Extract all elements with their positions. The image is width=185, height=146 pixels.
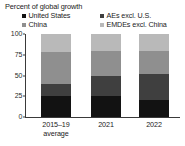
y-tick-mark: [23, 117, 26, 118]
y-tick-mark: [23, 75, 26, 76]
y-tick-label: 0: [19, 113, 23, 121]
bar-2022[interactable]: [139, 34, 169, 117]
legend-swatch-icon: [22, 14, 26, 18]
legend-item-label: AEs excl. U.S.: [107, 11, 152, 20]
bar-segment[interactable]: [91, 51, 121, 76]
chart-legend: United StatesAEs excl. U.S.ChinaEMDEs ex…: [0, 11, 185, 31]
x-tick-label-line: 2021: [81, 120, 131, 129]
bar-segment[interactable]: [41, 52, 71, 84]
stacked-bar-chart: Percent of global growth United StatesAE…: [0, 0, 185, 146]
x-axis-line: [25, 117, 180, 118]
bar-segment[interactable]: [91, 76, 121, 97]
legend-swatch-icon: [100, 23, 104, 27]
bar-segment[interactable]: [91, 96, 121, 117]
y-tick-label: 75: [15, 51, 23, 59]
y-tick-label: 100: [11, 30, 23, 38]
y-tick-label: 25: [15, 92, 23, 100]
legend-item[interactable]: EMDEs excl. China: [100, 20, 167, 29]
x-tick-label-line: 2015–19: [31, 120, 81, 129]
plot-area: 0255075100: [25, 34, 180, 118]
bar-segment[interactable]: [139, 74, 169, 101]
bar-segment[interactable]: [41, 96, 71, 117]
y-axis-line: [25, 34, 26, 118]
legend-swatch-icon: [22, 23, 26, 27]
bar-segment[interactable]: [139, 51, 169, 74]
legend-item[interactable]: AEs excl. U.S.: [100, 11, 151, 20]
bar-segment[interactable]: [139, 100, 169, 117]
x-axis-labels: 2015–19average20212022: [25, 120, 180, 146]
y-tick-label: 50: [15, 72, 23, 80]
legend-item-label: EMDEs excl. China: [107, 20, 167, 29]
y-tick-mark: [23, 34, 26, 35]
x-tick-label: 2022: [129, 120, 179, 129]
legend-item[interactable]: United States: [22, 11, 70, 20]
x-tick-label: 2021: [81, 120, 131, 129]
bar-segment[interactable]: [139, 34, 169, 51]
y-tick-mark: [23, 96, 26, 97]
bar-segment[interactable]: [41, 84, 71, 96]
x-tick-label: 2015–19average: [31, 120, 81, 138]
y-tick-mark: [23, 54, 26, 55]
bar-2015-19-average[interactable]: [41, 34, 71, 117]
legend-item[interactable]: China: [22, 20, 47, 29]
x-tick-label-line: 2022: [129, 120, 179, 129]
bar-2021[interactable]: [91, 34, 121, 117]
chart-title: Percent of global growth: [5, 2, 82, 11]
bar-segment[interactable]: [91, 34, 121, 51]
legend-item-label: China: [29, 20, 47, 29]
legend-swatch-icon: [100, 14, 104, 18]
bar-segment[interactable]: [41, 34, 71, 52]
x-tick-label-line: average: [31, 129, 81, 138]
legend-item-label: United States: [29, 11, 71, 20]
